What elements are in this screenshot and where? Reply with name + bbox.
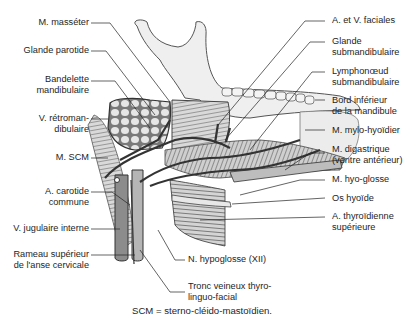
label-line: submandibulaire xyxy=(332,47,399,58)
label-line: Glande xyxy=(332,36,399,47)
label-scm: M. SCM xyxy=(56,152,89,163)
label-line: V. jugulaire interne xyxy=(13,223,89,234)
label-line: Lymphonœud xyxy=(332,66,399,77)
label-lymphonoeud: Lymphonœud submandibulaire xyxy=(332,66,399,87)
label-line: supérieure xyxy=(332,222,394,233)
label-bord: Bord inférieur de la mandibule xyxy=(332,95,397,116)
label-line: M. mylo-hyoïdier xyxy=(332,125,400,136)
label-tronc: Tronc veineux thyro- linguo-facial xyxy=(188,281,271,302)
hyoid-muscles xyxy=(170,180,225,246)
label-line: Bandelette xyxy=(36,74,89,85)
label-line: N. hypoglosse (XII) xyxy=(188,254,266,265)
label-line: M. masséter xyxy=(38,17,89,28)
label-mylohyoidien: M. mylo-hyoïdier xyxy=(332,125,400,136)
label-line: mandibulaire xyxy=(36,85,89,96)
label-line: Glande parotide xyxy=(24,45,89,56)
label-masseter: M. masséter xyxy=(38,17,89,28)
label-line: A. carotide xyxy=(45,186,89,197)
label-line: Rameau supérieur xyxy=(13,249,89,260)
label-line: M. hyo-glosse xyxy=(332,174,389,185)
label-bandelette: Bandelette mandibulaire xyxy=(36,74,89,95)
label-line: A. et V. faciales xyxy=(332,15,395,26)
label-parotide: Glande parotide xyxy=(24,45,89,56)
label-line: M. SCM xyxy=(56,152,89,163)
label-submandibulaire: Glande submandibulaire xyxy=(332,36,399,57)
label-line: submandibulaire xyxy=(332,77,399,88)
label-line: Os hyoïde xyxy=(332,193,374,204)
label-line: V. rétroman- xyxy=(39,113,89,124)
label-hyoglosse: M. hyo-glosse xyxy=(332,174,389,185)
label-jugulaire: V. jugulaire interne xyxy=(13,223,89,234)
label-carotide: A. carotide commune xyxy=(45,186,89,207)
label-digastrique: M. digastrique (ventre antérieur) xyxy=(332,144,402,165)
label-hypoglosse: N. hypoglosse (XII) xyxy=(188,254,266,265)
label-hyoide: Os hyoïde xyxy=(332,193,374,204)
label-retromandibulaire: V. rétroman- dibulaire xyxy=(39,113,89,134)
label-line: (ventre antérieur) xyxy=(332,155,402,166)
label-rameau: Rameau supérieur de l'anse cervicale xyxy=(13,249,89,270)
jugular-vein xyxy=(115,175,128,261)
label-line: de l'anse cervicale xyxy=(13,260,89,271)
label-line: dibulaire xyxy=(39,124,89,135)
label-line: Tronc veineux thyro- xyxy=(188,281,271,292)
label-faciales: A. et V. faciales xyxy=(332,15,395,26)
label-line: commune xyxy=(45,197,89,208)
figure-caption: SCM = sterno-cléido-mastoïdien. xyxy=(0,305,404,316)
parotid-gland xyxy=(108,98,171,150)
label-line: M. digastrique xyxy=(332,144,402,155)
label-line: Bord inférieur xyxy=(332,95,397,106)
label-line: A. thyroïdienne xyxy=(332,211,394,222)
label-thyroidienne: A. thyroïdienne supérieure xyxy=(332,211,394,232)
label-line: de la mandibule xyxy=(332,106,397,117)
label-line: linguo-facial xyxy=(188,292,271,303)
